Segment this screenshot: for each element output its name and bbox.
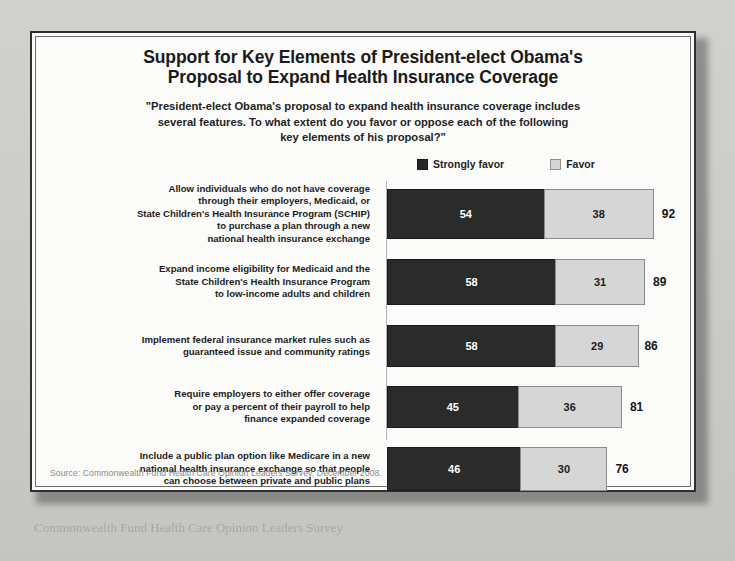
bar-category-label-line: Implement federal insurance market rules…	[46, 334, 370, 346]
bar-category-label-line: State Children's Health Insurance Progra…	[46, 276, 370, 288]
page-body-text: Commonwealth Fund Health Care Opinion Le…	[34, 520, 694, 536]
bar-segment-favor: 30	[520, 447, 607, 491]
stacked-bar: 5829	[387, 325, 639, 367]
bar-value-favor: 36	[564, 401, 576, 413]
chart-source-note: Source: Commonwealth Fund Health Care Op…	[50, 468, 382, 478]
chart-subtitle-line-3: key elements of his proposal?"	[68, 130, 658, 146]
bar-value-favor: 31	[594, 276, 606, 288]
bar-track: 583189	[378, 253, 680, 311]
bar-category-label: Implement federal insurance market rules…	[46, 334, 378, 359]
bar-total-label: 92	[662, 207, 675, 221]
bar-row: Implement federal insurance market rules…	[46, 323, 680, 369]
chart-subtitle-line-1: "President-elect Obama's proposal to exp…	[68, 99, 658, 115]
chart-title: Support for Key Elements of President-el…	[56, 47, 670, 87]
chart-plot-area: Allow individuals who do not have covera…	[46, 181, 680, 444]
bar-category-label-line: through their employers, Medicaid, or	[46, 195, 370, 207]
bar-segment-strongly-favor: 58	[387, 259, 555, 305]
bar-segment-favor: 38	[544, 189, 654, 239]
bar-total-label: 89	[653, 275, 666, 289]
bar-segment-strongly-favor: 54	[387, 189, 544, 239]
bar-category-label-line: or pay a percent of their payroll to hel…	[46, 401, 370, 413]
bar-segment-favor: 36	[518, 386, 622, 428]
bar-category-label-line: Include a public plan option like Medica…	[46, 450, 370, 462]
bar-category-label-line: to low-income adults and children	[46, 288, 370, 300]
bar-value-strongly-favor: 58	[465, 276, 477, 288]
bar-total-label: 76	[615, 462, 628, 476]
bar-row: Allow individuals who do not have covera…	[46, 183, 680, 245]
chart-subtitle-line-2: several features. To what extent do you …	[68, 115, 658, 131]
bar-category-label-line: Allow individuals who do not have covera…	[46, 183, 370, 195]
bar-track: 453681	[378, 383, 680, 431]
bar-category-label-line: national health insurance exchange	[46, 233, 370, 245]
bar-track: 543892	[378, 183, 680, 245]
bar-track: 582986	[378, 323, 680, 369]
chart-title-line-1: Support for Key Elements of President-el…	[56, 47, 670, 67]
bar-segment-strongly-favor: 46	[387, 447, 520, 491]
chart-title-line-2: Proposal to Expand Health Insurance Cove…	[56, 67, 670, 87]
bar-category-label-line: Expand income eligibility for Medicaid a…	[46, 263, 370, 275]
chart-subtitle: "President-elect Obama's proposal to exp…	[68, 99, 658, 146]
bar-track: 463076	[378, 443, 680, 495]
bar-value-strongly-favor: 54	[460, 208, 472, 220]
bar-segment-favor: 31	[555, 259, 645, 305]
bar-total-label: 86	[644, 339, 657, 353]
bar-segment-favor: 29	[555, 325, 639, 367]
bar-total-label: 81	[630, 400, 643, 414]
bar-value-strongly-favor: 46	[448, 463, 460, 475]
bar-category-label: Require employers to either offer covera…	[46, 388, 378, 425]
bar-value-favor: 38	[593, 208, 605, 220]
bar-value-favor: 30	[558, 463, 570, 475]
stacked-bar: 5831	[387, 259, 645, 305]
bar-category-label-line: Require employers to either offer covera…	[46, 388, 370, 400]
bar-category-label-line: guaranteed issue and community ratings	[46, 346, 370, 358]
bar-segment-strongly-favor: 45	[387, 386, 518, 428]
bar-category-label: Expand income eligibility for Medicaid a…	[46, 263, 378, 300]
legend-swatch-favor-icon	[550, 159, 561, 170]
legend-label-favor: Favor	[566, 158, 595, 170]
bar-category-label-line: State Children's Health Insurance Progra…	[46, 208, 370, 220]
bar-value-strongly-favor: 45	[447, 401, 459, 413]
bar-value-strongly-favor: 58	[465, 340, 477, 352]
chart-legend: Strongly favor Favor	[417, 158, 595, 170]
bar-category-label: Allow individuals who do not have covera…	[46, 183, 378, 245]
legend-swatch-strongly-favor-icon	[417, 159, 428, 170]
bar-segment-strongly-favor: 58	[387, 325, 555, 367]
stacked-bar: 4630	[387, 447, 607, 491]
stacked-bar: 4536	[387, 386, 622, 428]
bar-row: Expand income eligibility for Medicaid a…	[46, 253, 680, 311]
stacked-bar: 5438	[387, 189, 654, 239]
legend-item-strongly-favor: Strongly favor	[417, 158, 504, 170]
figure-card: Support for Key Elements of President-el…	[30, 31, 696, 492]
legend-label-strongly-favor: Strongly favor	[433, 158, 504, 170]
bar-value-favor: 29	[591, 340, 603, 352]
bar-category-label-line: to purchase a plan through a new	[46, 220, 370, 232]
legend-item-favor: Favor	[550, 158, 595, 170]
bar-category-label-line: finance expanded coverage	[46, 413, 370, 425]
bar-row: Require employers to either offer covera…	[46, 383, 680, 431]
